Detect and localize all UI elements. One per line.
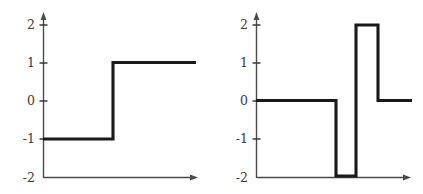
left-plot-svg: 2 1 0 -1 -2 bbox=[0, 0, 211, 194]
right-ytick-label-0: 0 bbox=[240, 93, 248, 108]
right-ytick-label-neg1: -1 bbox=[236, 131, 248, 146]
left-ytick-label-2: 2 bbox=[27, 17, 35, 32]
right-step-plot: 2 1 0 -1 -2 bbox=[211, 0, 423, 194]
left-step-curve bbox=[43, 63, 196, 140]
left-y-axis-arrow-icon bbox=[41, 12, 47, 20]
right-ytick-label-neg2: -2 bbox=[236, 170, 248, 185]
left-ytick-label-1: 1 bbox=[27, 55, 35, 70]
right-y-axis-arrow-icon bbox=[254, 12, 260, 20]
left-ytick-label-neg1: -1 bbox=[23, 131, 35, 146]
right-ytick-label-1: 1 bbox=[240, 55, 248, 70]
figure-container: 2 1 0 -1 -2 2 1 0 -1 -2 bbox=[0, 0, 423, 194]
left-x-axis-arrow-icon bbox=[190, 175, 198, 181]
right-plot-svg: 2 1 0 -1 -2 bbox=[211, 0, 423, 194]
left-ytick-label-neg2: -2 bbox=[23, 170, 35, 185]
right-x-axis-arrow-icon bbox=[403, 175, 411, 181]
right-ytick-label-2: 2 bbox=[240, 17, 248, 32]
right-step-curve bbox=[256, 25, 412, 176]
left-ytick-label-0: 0 bbox=[27, 93, 35, 108]
left-step-plot: 2 1 0 -1 -2 bbox=[0, 0, 211, 194]
